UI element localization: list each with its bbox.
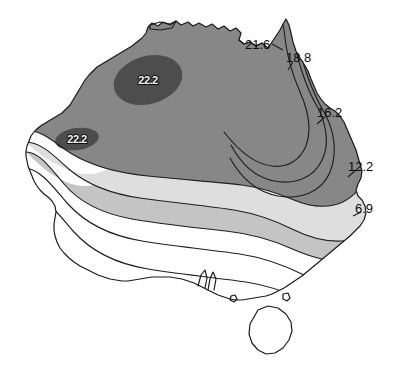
band-18-8-to-21-6 [26, 0, 392, 300]
australia-contour-map-svg: 21.6 18.8 16.2 12.2 6.9 22.2 22.2 [0, 0, 396, 366]
max-label-kimberley: 22.2 [138, 74, 158, 86]
contour-label-18-8: 18.8 [286, 50, 311, 65]
contour-map-figure: 21.6 18.8 16.2 12.2 6.9 22.2 22.2 [0, 0, 396, 366]
max-label-pilbara: 22.2 [67, 133, 87, 145]
contour-label-21-6: 21.6 [245, 37, 270, 52]
contour-label-6-9: 6.9 [355, 201, 373, 216]
flinders-island-outline [283, 293, 290, 301]
contour-label-12-2: 12.2 [348, 159, 373, 174]
contour-label-16-2: 16.2 [317, 105, 342, 120]
